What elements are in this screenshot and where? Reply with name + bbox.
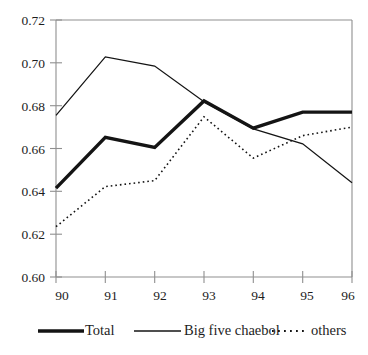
x-axis-tick-labels: 90 91 92 93 94 95 96 bbox=[55, 288, 355, 303]
y-tick-label: 0.62 bbox=[21, 227, 45, 242]
x-tick-label: 91 bbox=[104, 288, 118, 303]
legend-label-big-five-chaebol: Big five chaebol bbox=[184, 322, 280, 338]
chart-legend: Total Big five chaebol others bbox=[38, 322, 347, 338]
line-chart: 0.72 0.70 0.68 0.66 0.64 0.62 0.60 90 91… bbox=[0, 0, 368, 355]
series-line-total bbox=[56, 101, 352, 188]
y-tick-label: 0.70 bbox=[21, 56, 45, 71]
series-line-others bbox=[56, 117, 352, 227]
y-tick-label: 0.60 bbox=[21, 270, 45, 285]
x-tick-label: 92 bbox=[153, 288, 167, 303]
series-line-big-five-chaebol bbox=[56, 57, 352, 183]
x-tick-label: 90 bbox=[55, 288, 69, 303]
chart-container: 0.72 0.70 0.68 0.66 0.64 0.62 0.60 90 91… bbox=[0, 0, 368, 355]
x-tick-label: 93 bbox=[202, 288, 216, 303]
y-axis-tick-labels: 0.72 0.70 0.68 0.66 0.64 0.62 0.60 bbox=[21, 13, 45, 285]
x-tick-label: 96 bbox=[341, 288, 355, 303]
y-tick-label: 0.66 bbox=[21, 142, 45, 157]
y-tick-label: 0.64 bbox=[21, 184, 45, 199]
y-tick-label: 0.68 bbox=[21, 99, 45, 114]
x-tick-label: 95 bbox=[300, 288, 314, 303]
x-tick-label: 94 bbox=[251, 288, 265, 303]
legend-label-total: Total bbox=[85, 322, 115, 338]
y-tick-label: 0.72 bbox=[21, 13, 45, 28]
legend-label-others: others bbox=[311, 322, 347, 338]
